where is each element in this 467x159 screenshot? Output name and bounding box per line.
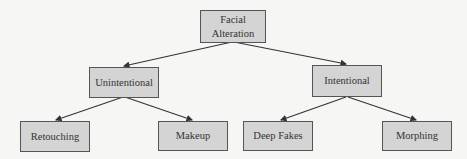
- node-label-line1: Facial: [220, 13, 246, 26]
- node-morphing: Morphing: [382, 121, 452, 151]
- node-makeup: Makeup: [158, 121, 228, 151]
- node-label: Deep Fakes: [253, 129, 302, 142]
- edge-intentional-deepfakes: [281, 97, 346, 120]
- edge-intentional-morphing: [348, 97, 416, 120]
- edge-unintentional-retouching: [56, 97, 123, 120]
- node-label-line2: Alteration: [212, 27, 255, 40]
- node-unintentional: Unintentional: [89, 67, 159, 98]
- node-label: Unintentional: [95, 76, 153, 89]
- node-label: Makeup: [176, 129, 210, 142]
- edge-unintentional-makeup: [125, 97, 192, 120]
- node-retouching: Retouching: [20, 121, 90, 152]
- node-intentional: Intentional: [312, 65, 382, 97]
- node-facial-alteration: Facial Alteration: [200, 10, 266, 43]
- edge-root-intentional: [234, 42, 346, 64]
- node-label: Morphing: [396, 129, 438, 142]
- node-deep-fakes: Deep Fakes: [243, 121, 313, 151]
- edge-root-unintentional: [124, 42, 232, 66]
- node-label: Retouching: [31, 130, 79, 143]
- node-label: Intentional: [324, 74, 370, 87]
